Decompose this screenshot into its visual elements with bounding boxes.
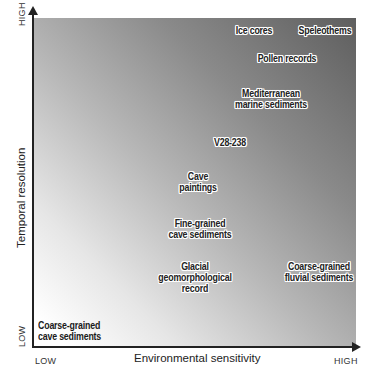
label-fine-grained-cave-sediments: Fine-grained cave sediments: [160, 218, 239, 240]
label-mediterranean-marine-sediments: Mediterranean marine sediments: [231, 88, 310, 110]
label-glacial-geomorphological-record: Glacial geomorphological record: [155, 261, 234, 294]
y-axis-title: Temporal resolution: [15, 148, 27, 248]
y-axis-line: [32, 12, 34, 348]
y-axis-low-label: LOW: [17, 326, 27, 347]
y-axis-high-label: HIGH: [17, 2, 27, 26]
label-coarse-grained-cave-sediments: Coarse-grained cave sediments: [38, 320, 108, 342]
x-axis-arrow-icon: [352, 342, 361, 352]
x-axis-high-label: HIGH: [334, 356, 358, 366]
x-axis-title: Environmental sensitivity: [134, 352, 261, 364]
label-ice-cores: Ice cores: [228, 25, 281, 36]
x-axis-line: [32, 346, 354, 348]
label-speleothems: Speleothems: [294, 25, 356, 36]
label-pollen-records: Pollen records: [252, 53, 322, 64]
label-coarse-grained-fluvial-sediments: Coarse-grained fluvial sediments: [284, 261, 354, 283]
x-axis-low-label: LOW: [35, 356, 56, 366]
label-v28-238: V28-238: [204, 137, 257, 148]
y-axis-arrow-icon: [28, 6, 38, 15]
label-cave-paintings: Cave paintings: [172, 171, 225, 193]
